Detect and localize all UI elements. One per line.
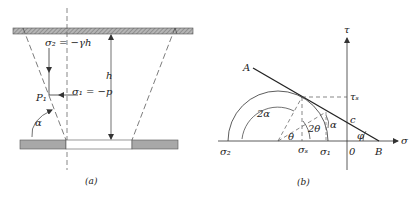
origin-label: 0 bbox=[349, 146, 356, 157]
cohesion-label: c bbox=[350, 114, 356, 125]
bottom-right-support bbox=[132, 140, 178, 149]
right-slip-line bbox=[132, 28, 175, 140]
sigma1-label: σ₁ = −p bbox=[72, 86, 113, 97]
sigma1-b-label: σ₁ bbox=[320, 146, 331, 157]
alpha-label: α bbox=[35, 117, 42, 128]
two-theta-label: 2θ bbox=[307, 123, 320, 134]
bottom-opening bbox=[66, 140, 132, 149]
figure-canvas: σ₂ = −γh σ₁ = −p P₁ h α (a) τ σ A B τₛ c… bbox=[0, 0, 418, 197]
bottom-left-support bbox=[20, 140, 66, 149]
caption-a: (a) bbox=[85, 176, 98, 186]
sigma-axis-label: σ bbox=[401, 135, 409, 146]
theta-label: θ bbox=[288, 131, 294, 142]
alpha-b-label: α bbox=[330, 119, 337, 130]
phi-label: φ bbox=[357, 130, 364, 141]
figure-a: σ₂ = −γh σ₁ = −p P₁ h α (a) bbox=[13, 8, 193, 186]
caption-b: (b) bbox=[297, 177, 310, 187]
point-a-label: A bbox=[242, 62, 250, 73]
figure-b: τ σ A B τₛ c 0 φ σ₂ σ₁ σₛ 2α 2θ θ α (b) bbox=[218, 24, 409, 187]
tau-s-label: τₛ bbox=[350, 91, 359, 102]
point-b-label: B bbox=[374, 146, 382, 157]
alpha-arc-b bbox=[326, 115, 329, 128]
point-p1-label: P₁ bbox=[35, 92, 47, 103]
height-label: h bbox=[106, 70, 112, 81]
sigma-s-label: σₛ bbox=[298, 144, 308, 155]
sigma2-label: σ₂ = −γh bbox=[45, 37, 91, 48]
tau-axis-label: τ bbox=[344, 24, 350, 35]
top-ground-surface bbox=[13, 28, 193, 34]
sigma2-b-label: σ₂ bbox=[220, 146, 231, 157]
two-alpha-label: 2α bbox=[256, 108, 270, 119]
